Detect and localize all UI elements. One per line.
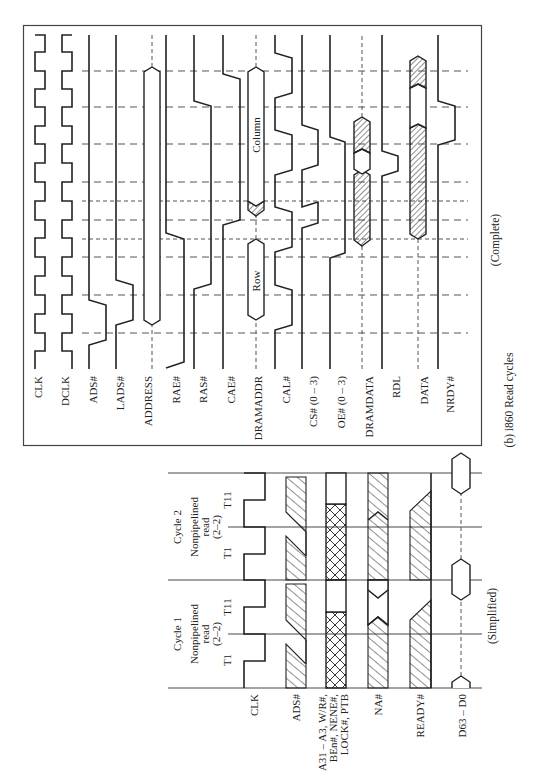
clk-waveform (35, 35, 45, 369)
svg-text:Cycle 2: Cycle 2 (171, 510, 183, 544)
cal-waveform (275, 35, 292, 369)
column-label: Column (250, 117, 262, 153)
label-lads: LADS# (114, 376, 126, 411)
s-ready-waveform (410, 473, 431, 688)
svg-text:Cycle 1: Cycle 1 (171, 617, 183, 651)
label-address: ADDRESS (142, 376, 154, 426)
dramdata-bus (354, 35, 370, 369)
s-label-na: NA# (372, 694, 384, 716)
label-rae: RAE# (170, 376, 182, 404)
s-label-data: D63 – D0 (456, 694, 468, 738)
timing-diagram: Row Column (0, 0, 537, 784)
label-dramaddr: DRAMADDR (252, 375, 264, 440)
complete-signal-labels: CLK DCLK ADS# LADS# ADDRESS RAE# RAS# CA… (32, 375, 456, 440)
address-bus (144, 35, 160, 369)
dclk-waveform (62, 35, 72, 369)
c2-t11-label: T11 (221, 491, 233, 508)
s-data-bus (452, 453, 470, 688)
cae-waveform (223, 35, 240, 369)
s-label-ready: READY# (414, 694, 426, 738)
figure-caption: (b) i860 Read cycles (503, 352, 516, 447)
label-cs: CS# (0 – 3) (307, 376, 320, 427)
s-label-clk: CLK (248, 694, 260, 716)
label-dclk: DCLK (59, 376, 71, 406)
data-bus (410, 56, 426, 369)
complete-caption: (Complete) (489, 214, 502, 267)
s-label-addr-3: LOCK#, PTB (338, 694, 350, 755)
rdl-waveform (382, 35, 398, 369)
svg-text:(2–2): (2–2) (210, 515, 223, 539)
dramaddr-bus: Row Column (248, 35, 264, 369)
s-clk-waveform (244, 473, 265, 688)
label-ras: RAS# (197, 376, 209, 403)
nrdy-waveform (438, 35, 455, 369)
s-label-ads: ADS# (290, 694, 302, 722)
simplified-caption: (Simplified) (486, 588, 499, 644)
label-nrdy: NRDY# (444, 376, 456, 413)
svg-text:(2–2): (2–2) (210, 622, 223, 646)
label-cal: CAL# (280, 376, 292, 404)
label-ads: ADS# (87, 376, 99, 404)
s-na-waveform (368, 473, 388, 688)
ras-waveform (194, 35, 211, 369)
simplified-panel: T1 T11 T1 T11 Cycle 1 Nonpipelined read … (168, 453, 482, 771)
cs-waveform (302, 35, 318, 369)
s-address-bus (326, 473, 346, 688)
cycle-1-label: Cycle 1 Nonpipelined read (2–2) (171, 604, 223, 664)
ads-waveform (89, 35, 106, 369)
lads-waveform (116, 35, 133, 369)
complete-panel: Row Column (24, 26, 482, 446)
label-rdl: RDL (390, 376, 402, 398)
simplified-signal-labels: CLK ADS# A31 – A3, W/R#, BEn#, NENE#, LO… (248, 694, 468, 772)
c2-t1-label: T1 (221, 547, 233, 559)
c1-t1-label: T1 (221, 654, 233, 666)
label-data: DATA (418, 376, 430, 405)
label-dramdata: DRAMDATA (363, 376, 375, 438)
c1-t11-label: T11 (221, 598, 233, 615)
label-cae: CAE# (225, 376, 237, 404)
oe-waveform (330, 35, 345, 369)
label-oe: OE# (0 – 3) (335, 376, 348, 429)
label-clk: CLK (32, 376, 44, 398)
cycle-2-label: Cycle 2 Nonpipelined read (2–2) (171, 497, 223, 557)
row-label: Row (250, 271, 262, 292)
s-ads-waveform (286, 477, 306, 688)
